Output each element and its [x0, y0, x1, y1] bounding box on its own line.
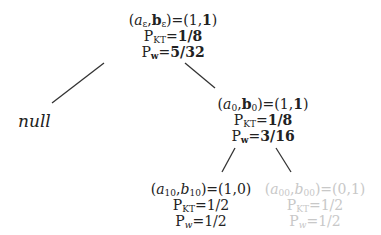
- node-00: (a00,b00)=(0,1) PKT=1/2 Pw=1/2: [258, 181, 372, 229]
- edge-root-null: [52, 63, 104, 103]
- node-10-state: (a10,b10)=(1,0): [144, 181, 258, 197]
- edge-n0-n00: [276, 148, 291, 172]
- node-0-pkt: PKT=1/8: [188, 112, 338, 128]
- node-null: null: [18, 111, 51, 131]
- node-10-pkt: PKT=1/2: [144, 197, 258, 213]
- node-root-pkt: PKT=1/8: [98, 28, 248, 44]
- node-10-pw: Pw=1/2: [144, 213, 258, 229]
- node-root-state: (aε,bε)=(1,1): [98, 12, 248, 28]
- node-root: (aε,bε)=(1,1) PKT=1/8 Pw=5/32: [98, 12, 248, 60]
- edge-root-n0: [185, 63, 215, 88]
- node-0-pw: Pw=3/16: [188, 128, 338, 144]
- node-10: (a10,b10)=(1,0) PKT=1/2 Pw=1/2: [144, 181, 258, 229]
- node-0: (a0,b0)=(1,1) PKT=1/8 Pw=3/16: [188, 96, 338, 144]
- node-00-state: (a00,b00)=(0,1): [258, 181, 372, 197]
- edge-n0-n10: [222, 148, 235, 172]
- node-00-pkt: PKT=1/2: [258, 197, 372, 213]
- node-00-pw: Pw=1/2: [258, 213, 372, 229]
- node-root-pw: Pw=5/32: [98, 44, 248, 60]
- node-0-state: (a0,b0)=(1,1): [188, 96, 338, 112]
